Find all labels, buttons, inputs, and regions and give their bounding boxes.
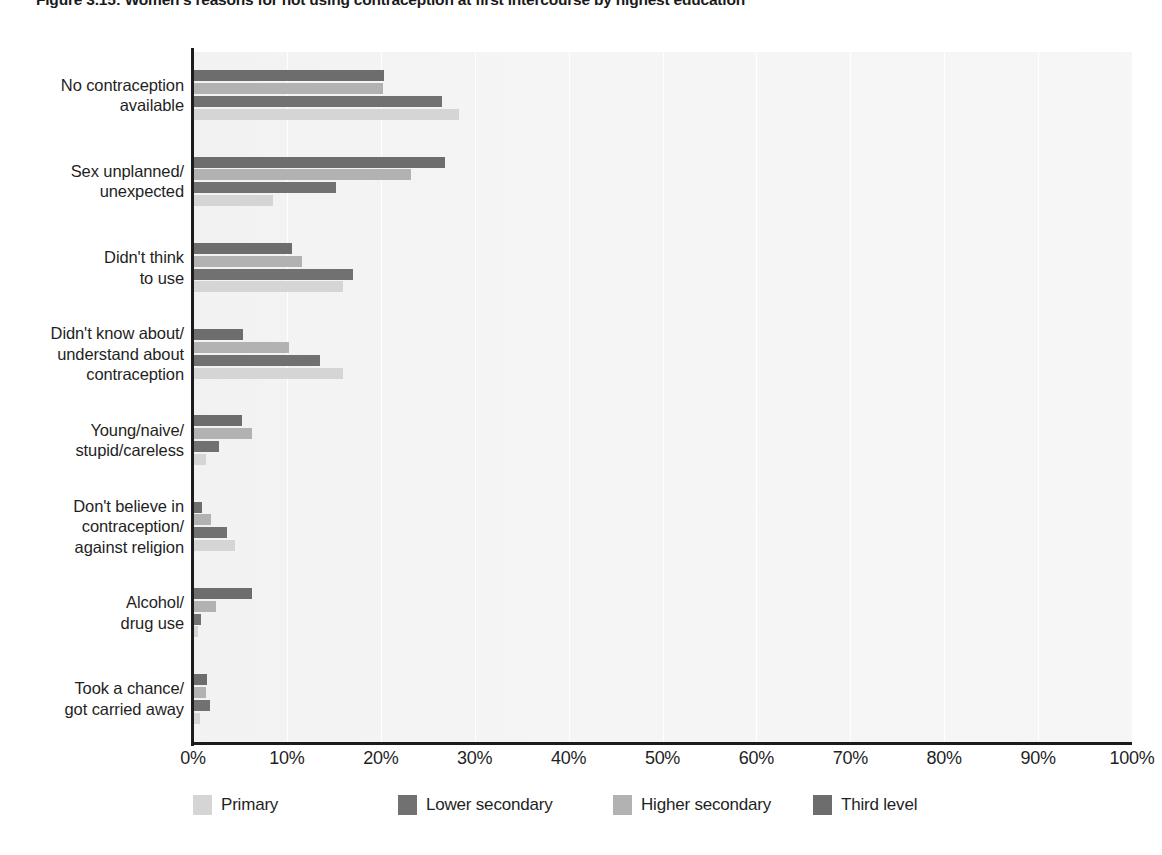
x-axis-tick: 40% <box>551 748 586 769</box>
legend-label: Lower secondary <box>426 795 552 815</box>
y-axis-label-line: contraception <box>0 364 184 385</box>
y-axis-label: Didn't thinkto use <box>0 247 184 288</box>
legend-label: Third level <box>841 795 917 815</box>
x-axis-tick: 20% <box>363 748 398 769</box>
bar <box>193 169 411 180</box>
y-axis-label: Sex unplanned/unexpected <box>0 161 184 202</box>
chart-legend: PrimaryLower secondaryHigher secondaryTh… <box>193 795 1132 825</box>
bar <box>193 342 289 353</box>
y-axis-label-line: stupid/careless <box>0 440 184 461</box>
bar <box>193 281 343 292</box>
legend-swatch <box>813 795 832 815</box>
y-axis-label-line: Didn't think <box>0 247 184 268</box>
x-axis-tick: 70% <box>833 748 868 769</box>
bar-group <box>193 243 1132 292</box>
gridline <box>287 52 288 742</box>
x-axis-tick: 80% <box>927 748 962 769</box>
y-axis-label: Alcohol/drug use <box>0 592 184 633</box>
bar <box>193 514 211 525</box>
bar-group <box>193 70 1132 119</box>
y-axis-label-line: Sex unplanned/ <box>0 161 184 182</box>
bar <box>193 454 206 465</box>
gridline <box>663 52 664 742</box>
bar-group <box>193 502 1132 551</box>
y-axis-label-line: Took a chance/ <box>0 678 184 699</box>
bar <box>193 70 384 81</box>
bar-group <box>193 588 1132 637</box>
bar <box>193 368 343 379</box>
gridline <box>756 52 757 742</box>
y-axis-label: Young/naive/stupid/careless <box>0 420 184 461</box>
bar <box>193 182 336 193</box>
bar-group <box>193 157 1132 206</box>
x-axis-tick: 90% <box>1021 748 1056 769</box>
bar <box>193 588 252 599</box>
legend-item[interactable]: Lower secondary <box>398 795 552 815</box>
bar <box>193 83 383 94</box>
legend-label: Primary <box>221 795 278 815</box>
bar <box>193 109 459 120</box>
legend-item[interactable]: Third level <box>813 795 917 815</box>
bar <box>193 243 292 254</box>
bar <box>193 256 302 267</box>
legend-swatch <box>398 795 417 815</box>
bar-group <box>193 415 1132 464</box>
legend-swatch <box>193 795 212 815</box>
y-axis-label-line: against religion <box>0 537 184 558</box>
bar <box>193 355 320 366</box>
bar <box>193 527 227 538</box>
bar <box>193 502 202 513</box>
legend-label: Higher secondary <box>641 795 771 815</box>
y-axis-label-line: understand about <box>0 344 184 365</box>
gridline <box>381 52 382 742</box>
y-axis-label: Don't believe incontraception/against re… <box>0 496 184 558</box>
legend-item[interactable]: Higher secondary <box>613 795 771 815</box>
legend-swatch <box>613 795 632 815</box>
y-axis-label: Took a chance/got carried away <box>0 678 184 719</box>
y-axis-label: Didn't know about/understand aboutcontra… <box>0 323 184 385</box>
plot-area <box>193 52 1132 742</box>
bar <box>193 195 273 206</box>
bar <box>193 269 353 280</box>
y-axis-label-line: No contraception <box>0 75 184 96</box>
gridline <box>1132 52 1133 742</box>
y-axis-label-line: to use <box>0 268 184 289</box>
bar <box>193 441 219 452</box>
y-axis-line <box>191 48 194 746</box>
bar-group <box>193 329 1132 378</box>
gridline <box>569 52 570 742</box>
gridline <box>850 52 851 742</box>
bar <box>193 674 207 685</box>
y-axis-label-line: drug use <box>0 613 184 634</box>
bar <box>193 540 235 551</box>
gridline <box>475 52 476 742</box>
bar <box>193 329 243 340</box>
x-axis-tick: 30% <box>457 748 492 769</box>
y-axis-label-line: Didn't know about/ <box>0 323 184 344</box>
x-axis-tick-labels: 0%10%20%30%40%50%60%70%80%90%100% <box>0 748 1162 776</box>
y-axis-label-line: contraception/ <box>0 516 184 537</box>
bar <box>193 96 442 107</box>
bar <box>193 687 206 698</box>
x-axis-tick: 60% <box>739 748 774 769</box>
y-axis-label-line: Alcohol/ <box>0 592 184 613</box>
bar <box>193 700 210 711</box>
x-axis-tick: 50% <box>645 748 680 769</box>
bar-group <box>193 674 1132 723</box>
y-axis-label-line: available <box>0 95 184 116</box>
x-axis-tick: 100% <box>1110 748 1155 769</box>
y-axis-label-line: got carried away <box>0 699 184 720</box>
bar <box>193 428 252 439</box>
bar <box>193 614 201 625</box>
bar <box>193 601 216 612</box>
gridline <box>1038 52 1039 742</box>
y-axis-category-labels: No contraceptionavailableSex unplanned/u… <box>0 0 184 855</box>
y-axis-label-line: unexpected <box>0 181 184 202</box>
y-axis-label: No contraceptionavailable <box>0 75 184 116</box>
bar <box>193 157 445 168</box>
x-axis-tick: 0% <box>180 748 205 769</box>
gridline <box>944 52 945 742</box>
legend-item[interactable]: Primary <box>193 795 278 815</box>
bar <box>193 415 242 426</box>
grouped-bar-chart: No contraceptionavailableSex unplanned/u… <box>0 0 1162 855</box>
